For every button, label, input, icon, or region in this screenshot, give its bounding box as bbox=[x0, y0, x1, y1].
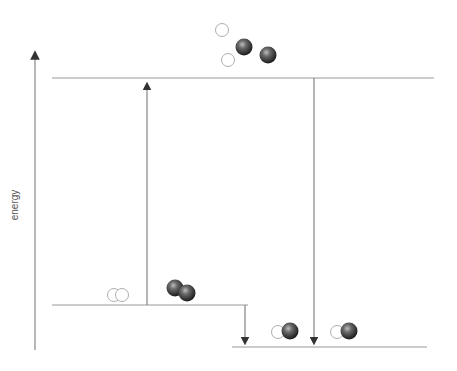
h2-molecule bbox=[108, 289, 129, 302]
hx-molecule-2 bbox=[331, 323, 358, 340]
separated-atoms bbox=[216, 24, 277, 67]
x2-molecule bbox=[167, 280, 196, 302]
energy-diagram bbox=[0, 0, 457, 371]
energy-axis-label: energy bbox=[9, 190, 20, 221]
hx-molecule-1 bbox=[272, 323, 299, 340]
